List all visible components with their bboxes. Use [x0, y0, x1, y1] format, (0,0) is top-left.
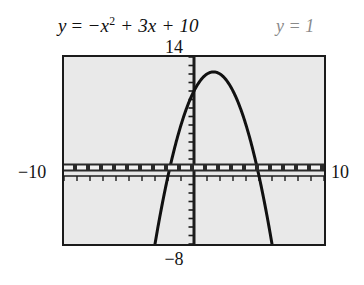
plot-canvas [64, 57, 324, 244]
graph-figure: y = −x2 + 3x + 10 y = 1 14 −8 −10 10 [0, 0, 364, 285]
y-min-label: −8 [0, 250, 356, 268]
x-min-label: −10 [18, 163, 46, 181]
x-max-label: 10 [331, 163, 349, 181]
equation-lhs: y [58, 15, 67, 36]
y-max-label: 14 [0, 38, 356, 56]
primary-equation-label: y = −x2 + 3x + 10 [58, 16, 199, 35]
equation-term-3: + 10 [161, 15, 198, 36]
equation-equals: = [72, 15, 83, 36]
plot-window [62, 55, 326, 246]
equation-exponent: 2 [109, 15, 115, 28]
axes-group [64, 57, 324, 244]
equation-term-2: + 3x [120, 15, 156, 36]
equation-term-1: −x [87, 15, 109, 36]
secondary-equation-label: y = 1 [276, 17, 314, 35]
parabola-curve [152, 72, 274, 244]
